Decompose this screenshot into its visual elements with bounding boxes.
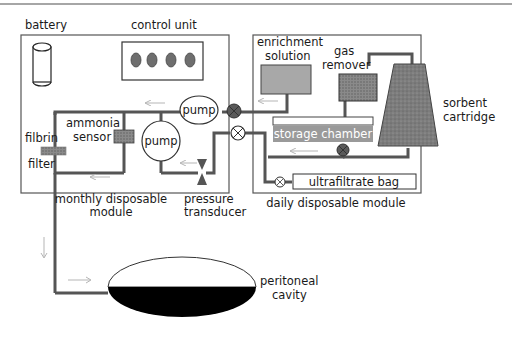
pump-top-label: pump <box>182 103 215 117</box>
valve-open-icon <box>275 177 285 187</box>
peritoneal-cavity-label-1: peritoneal <box>260 274 318 288</box>
filbrin-filter-label-1: filbrin <box>25 131 58 145</box>
monthly-module-label-1: monthly disposable <box>55 192 167 206</box>
indicator-light-icon <box>131 53 141 67</box>
storage-chamber-lid <box>273 117 373 125</box>
enrichment-solution-container <box>261 65 311 94</box>
gas-remover-label-2: remover <box>322 58 371 72</box>
enrichment-solution-label-1: enrichment <box>257 35 323 49</box>
pump-middle-label: pump <box>144 134 177 148</box>
pressure-transducer-label-2: transducer <box>184 205 247 219</box>
battery-icon <box>33 43 51 86</box>
control-unit-label: control unit <box>131 18 197 32</box>
control-unit <box>122 42 203 80</box>
ultrafiltrate-bag-label: ultrafiltrate bag <box>309 175 399 189</box>
battery-label: battery <box>25 18 67 32</box>
storage-chamber-label: storage chamber <box>274 127 373 141</box>
valve-closed-icon <box>337 144 349 156</box>
dialysis-system-diagram: battery control unit <box>0 0 512 340</box>
pump-middle: pump <box>142 121 180 161</box>
gas-remover-label-1: gas <box>334 44 354 58</box>
sorbent-cartridge-label-2: cartridge <box>443 110 495 124</box>
valve-closed-icon <box>227 104 241 118</box>
pump-top: pump <box>180 96 218 124</box>
valve-open-icon <box>231 126 245 140</box>
indicator-light-icon <box>185 53 195 67</box>
enrichment-solution-label-2: solution <box>265 49 311 63</box>
pressure-transducer-label-1: pressure <box>184 192 234 206</box>
ammonia-sensor-label-2: sensor <box>73 130 111 144</box>
monthly-module-label-2: module <box>89 205 132 219</box>
daily-module-label: daily disposable module <box>266 196 405 210</box>
ammonia-sensor-label-1: ammonia <box>66 116 120 130</box>
filbrin-filter-label-2: filter <box>28 157 55 171</box>
peritoneal-cavity <box>108 257 256 317</box>
indicator-light-icon <box>147 53 157 67</box>
indicator-light-icon <box>166 53 176 67</box>
ammonia-sensor <box>114 130 134 143</box>
peritoneal-cavity-label-2: cavity <box>272 288 307 302</box>
gas-remover <box>339 74 377 101</box>
sorbent-cartridge-label-1: sorbent <box>443 96 487 110</box>
filbrin-filter <box>41 147 66 155</box>
